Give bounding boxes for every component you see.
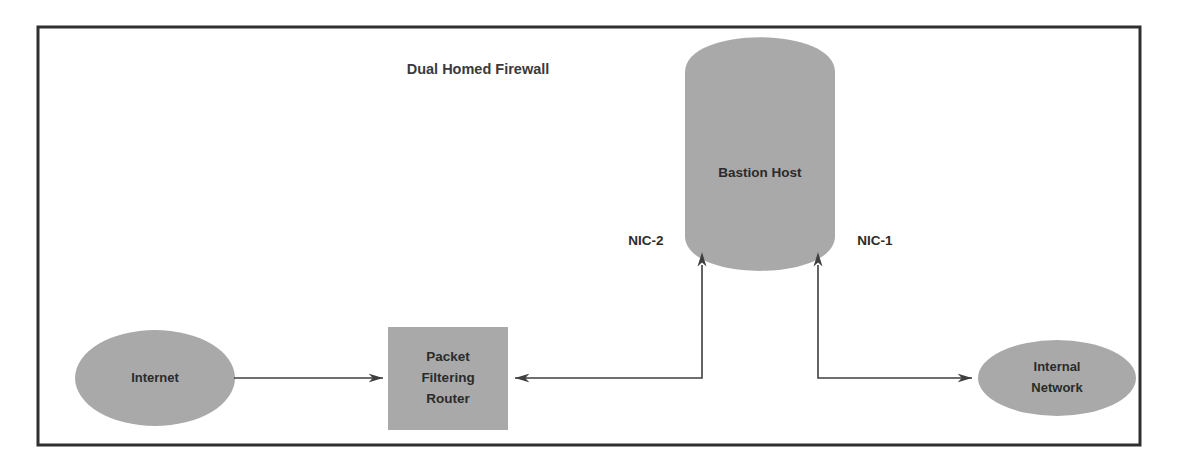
connector-bastion-nic1-to-internal-network [818, 265, 972, 378]
router-label-line-1: Packet [426, 349, 470, 364]
router-label-line-2: Filtering [421, 370, 474, 385]
node-internet[interactable]: Internet [75, 330, 235, 426]
diagram-canvas: Dual Homed Firewall Internet Packet Filt… [0, 0, 1179, 472]
network-diagram: Dual Homed Firewall Internet Packet Filt… [0, 0, 1179, 472]
internet-label: Internet [131, 370, 179, 385]
internal-network-label-line-2: Network [1031, 380, 1083, 395]
nic-2-label: NIC-2 [628, 233, 663, 248]
diagram-title: Dual Homed Firewall [407, 61, 550, 77]
internal-network-ellipse-shape [978, 340, 1136, 416]
bastion-host-label: Bastion Host [718, 165, 802, 180]
connector-bastion-nic2-to-router [515, 265, 702, 378]
bastion-host-cylinder-shape [685, 37, 835, 271]
nic-1-label: NIC-1 [857, 233, 893, 248]
internal-network-label-line-1: Internal [1034, 359, 1081, 374]
node-internal-network[interactable]: Internal Network [978, 340, 1136, 416]
node-bastion-host[interactable]: Bastion Host [685, 37, 835, 271]
node-packet-filtering-router[interactable]: Packet Filtering Router [388, 327, 508, 430]
router-label-line-3: Router [426, 391, 470, 406]
